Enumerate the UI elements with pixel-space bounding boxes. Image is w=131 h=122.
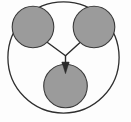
edge-left-parent-to-junction — [48, 43, 66, 56]
node-parent-right[interactable] — [73, 6, 115, 48]
diagram-canvas — [0, 0, 131, 122]
edge-right-parent-to-junction — [66, 42, 81, 56]
node-parent-left[interactable] — [12, 6, 54, 48]
graphical-model-svg — [0, 0, 131, 122]
